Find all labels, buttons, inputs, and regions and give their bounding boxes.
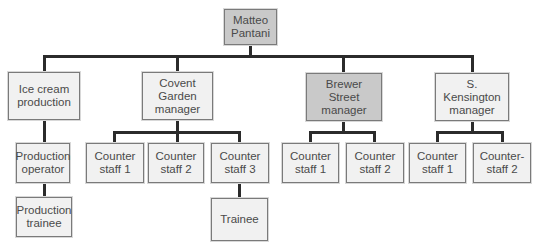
node-label: Counter- staff 2 (480, 150, 525, 176)
node-label: Production operator (16, 150, 71, 176)
connector-brewer-cs1 (309, 131, 312, 143)
node-covent-counter-staff-2: Counter staff 2 (148, 143, 204, 183)
connector-level1-bus (43, 55, 474, 58)
node-production-operator: Production operator (16, 143, 70, 183)
node-brewer-counter-staff-1: Counter staff 1 (282, 143, 339, 183)
connector-covent-cs2 (176, 131, 179, 143)
node-label: Ice cream production (17, 83, 71, 109)
connector-brewer-up (342, 55, 345, 73)
node-brewer-street-manager: Brewer Street manager (306, 73, 382, 121)
connector-kensington-bus (436, 131, 503, 134)
connector-icecream-up (43, 55, 46, 72)
connector-kensington-cs1 (436, 131, 439, 143)
node-s-kensington-manager: S. Kensington manager (435, 73, 509, 121)
node-kensington-counter-staff-2: Counter- staff 2 (473, 143, 531, 183)
connector-kensington-up (471, 55, 474, 73)
node-ice-cream-production: Ice cream production (8, 72, 80, 120)
node-label: Counter staff 3 (220, 150, 261, 176)
node-label: Trainee (220, 213, 259, 226)
connector-cs3-down (238, 182, 241, 198)
node-label: Production trainee (17, 204, 72, 230)
connector-icecream-down (43, 119, 46, 143)
node-label: Counter staff 1 (290, 150, 331, 176)
node-production-trainee: Production trainee (16, 197, 72, 237)
node-label: Matteo Pantani (231, 14, 270, 40)
node-kensington-counter-staff-1: Counter staff 1 (409, 143, 466, 183)
node-brewer-counter-staff-2: Counter staff 2 (346, 143, 404, 183)
connector-brewer-cs2 (373, 131, 376, 143)
node-covent-garden-manager: Covent Garden manager (142, 72, 213, 120)
node-covent-counter-staff-1: Counter staff 1 (86, 143, 144, 183)
node-label: Brewer Street manager (321, 78, 366, 117)
node-label: S. Kensington manager (438, 78, 506, 117)
node-label: Counter staff 1 (95, 150, 136, 176)
connector-kensington-cs2 (501, 131, 504, 143)
node-covent-trainee: Trainee (211, 198, 268, 241)
node-covent-counter-staff-3: Counter staff 3 (211, 143, 269, 183)
node-label: Covent Garden manager (155, 77, 200, 116)
connector-operator-down (43, 182, 46, 197)
connector-brewer-bus (309, 131, 375, 134)
connector-covent-cs3 (238, 131, 241, 143)
connector-covent-up (176, 55, 179, 72)
node-label: Counter staff 1 (417, 150, 458, 176)
node-label: Counter staff 2 (355, 150, 396, 176)
node-matteo-pantani: Matteo Pantani (224, 9, 277, 45)
node-label: Counter staff 2 (156, 150, 197, 176)
connector-covent-cs1 (113, 131, 116, 143)
